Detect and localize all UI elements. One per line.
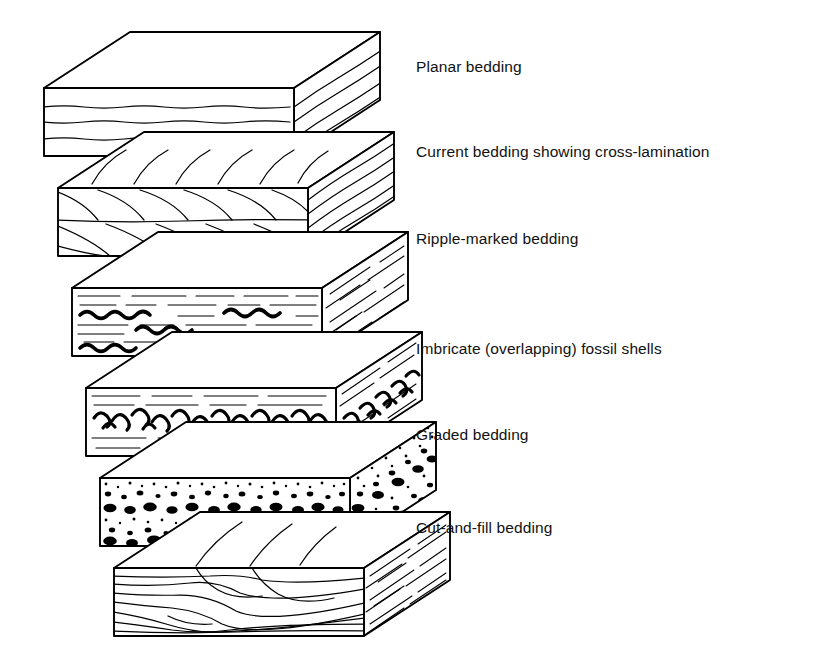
label-imbricate-fossil-shells: Imbricate (overlapping) fossil shells bbox=[416, 340, 662, 357]
labels-group: Planar bedding Current bedding showing c… bbox=[416, 58, 709, 536]
label-graded-bedding: Graded bedding bbox=[416, 426, 529, 443]
label-cut-and-fill-bedding: Cut-and-fill bedding bbox=[416, 519, 552, 536]
label-ripple-marked-bedding: Ripple-marked bedding bbox=[416, 230, 578, 247]
label-planar-bedding: Planar bedding bbox=[416, 58, 522, 75]
sedimentary-bedding-figure: Planar bedding Current bedding showing c… bbox=[0, 0, 829, 661]
cutfill-front-face bbox=[114, 568, 364, 636]
label-current-bedding: Current bedding showing cross-lamination bbox=[416, 143, 709, 160]
